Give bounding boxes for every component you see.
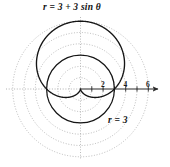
curve-cardioid <box>36 21 124 97</box>
polar-curves-layer <box>0 0 170 167</box>
polar-plot-figure: 2 4 6 r = 3 + 3 sin θ r = 3 <box>0 0 170 167</box>
